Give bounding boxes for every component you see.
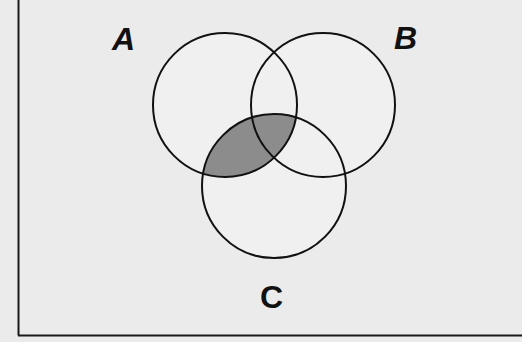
- set-a-label: A: [112, 23, 135, 55]
- set-c-label: C: [260, 281, 283, 313]
- set-b-label: B: [394, 22, 417, 54]
- venn-diagram-canvas: A B C: [0, 0, 522, 342]
